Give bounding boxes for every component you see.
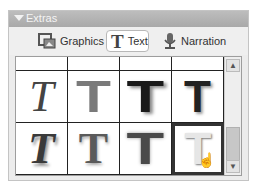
tab-graphics-label: Graphics <box>60 35 104 47</box>
text-style-grid: TTTTTTTTTTTT☝ ▲ ▼ <box>15 56 242 176</box>
text-style-gray-block[interactable]: T <box>68 71 120 123</box>
scrollbar-thumb[interactable] <box>226 127 240 161</box>
panel-header[interactable]: Extras <box>9 11 248 27</box>
text-style-preview-glyph: T <box>127 127 165 171</box>
tab-graphics[interactable]: Graphics <box>34 30 108 52</box>
panel-title: Extras <box>26 12 57 24</box>
text-style-preview-glyph: T <box>29 75 53 119</box>
tab-narration-label: Narration <box>181 35 226 47</box>
graphics-icon <box>38 33 56 49</box>
text-style-serif-shadow[interactable]: T <box>68 123 120 175</box>
text-style-preview-glyph: T <box>28 127 55 171</box>
tab-text-label: Text <box>128 35 148 47</box>
chevron-up-icon[interactable]: ▲ <box>226 59 240 72</box>
text-style-partial-2[interactable]: T <box>68 56 120 71</box>
tab-text[interactable]: T Text <box>106 30 149 52</box>
text-style-black-shadow[interactable]: T <box>120 71 172 123</box>
text-style-italic-serif[interactable]: T <box>16 71 68 123</box>
extras-panel: Extras Graphics T Text Narration TTTT <box>8 10 249 181</box>
text-style-black-narrow[interactable]: T <box>172 71 224 123</box>
text-style-partial-4[interactable]: T <box>172 56 224 71</box>
chevron-down-icon[interactable]: ▼ <box>226 160 240 173</box>
text-style-light-outline[interactable]: T☝ <box>172 123 224 175</box>
text-style-partial-3[interactable]: T <box>120 56 172 71</box>
text-style-bold-italic-shadow[interactable]: T <box>16 123 68 175</box>
tab-narration[interactable]: Narration <box>159 30 230 52</box>
microphone-icon <box>163 32 177 50</box>
text-style-line[interactable]: T <box>16 56 68 71</box>
text-style-preview-glyph: T <box>79 127 108 171</box>
text-T-icon: T <box>111 32 124 51</box>
text-style-preview-glyph: T <box>127 75 165 119</box>
scrollbar[interactable]: ▲ ▼ <box>224 57 241 175</box>
text-style-dark-block[interactable]: T <box>120 123 172 175</box>
text-style-preview-glyph: T <box>76 75 111 119</box>
triangle-down-icon[interactable] <box>14 15 24 21</box>
hand-pointer-icon: ☝ <box>198 152 215 168</box>
text-style-preview-glyph: T <box>184 75 211 119</box>
tab-bar: Graphics T Text Narration <box>9 27 248 55</box>
